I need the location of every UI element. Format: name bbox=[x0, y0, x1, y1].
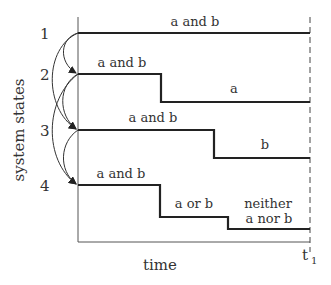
state-4-label-a-nor-b: a nor b bbox=[246, 211, 293, 226]
state-2-label-a: a bbox=[230, 81, 238, 96]
x-axis-label: time bbox=[143, 256, 177, 274]
state-4-label-a-or-b: a or b bbox=[175, 196, 213, 211]
transition-1-to-2-arrow bbox=[63, 33, 78, 73]
state-number-4: 4 bbox=[40, 177, 50, 195]
state-number-3: 3 bbox=[40, 122, 50, 140]
state-4-label-neither: neither bbox=[244, 196, 293, 211]
state-2-label-a-and-b: a and b bbox=[98, 55, 147, 70]
y-axis-label: system states bbox=[10, 78, 28, 181]
system-states-diagram: system states time t1 1 2 3 4 a and b a … bbox=[0, 0, 331, 285]
state-3-label-b: b bbox=[261, 137, 269, 152]
state-2-trace bbox=[78, 74, 310, 102]
transition-3-to-4-arrow bbox=[63, 130, 78, 184]
state-3-trace bbox=[78, 130, 310, 158]
state-number-1: 1 bbox=[40, 25, 50, 43]
state-3-label-a-and-b: a and b bbox=[129, 110, 178, 125]
state-4-label-a-and-b: a and b bbox=[97, 166, 146, 181]
transition-2-to-3-arrow bbox=[63, 74, 78, 129]
state-number-2: 2 bbox=[40, 66, 50, 84]
state-1-label-a-and-b: a and b bbox=[171, 14, 220, 29]
